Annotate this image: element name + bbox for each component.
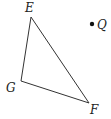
vertex-label-g: G bbox=[6, 81, 16, 95]
vertex-label-f: F bbox=[89, 103, 99, 117]
point-q-dot bbox=[90, 22, 94, 26]
geometry-diagram: E G F Q bbox=[0, 0, 111, 119]
point-label-q: Q bbox=[97, 18, 107, 32]
vertex-label-e: E bbox=[24, 1, 34, 15]
triangle-efg bbox=[21, 17, 89, 103]
